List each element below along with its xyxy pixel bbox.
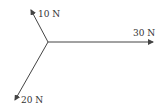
label-20n: 20 N (21, 95, 43, 105)
label-30n: 30 N (133, 28, 155, 38)
force-diagram: 10 N 30 N 20 N (0, 0, 163, 111)
force-30n: 30 N (48, 28, 155, 42)
force-20n: 20 N (15, 42, 48, 105)
label-10n: 10 N (38, 9, 60, 19)
force-10n: 10 N (31, 9, 60, 42)
